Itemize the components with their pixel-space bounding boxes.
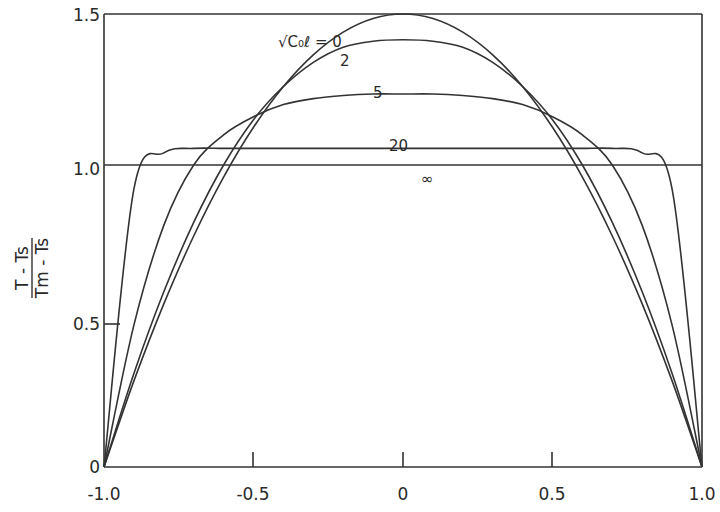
x-tick-label: 0.5 bbox=[538, 484, 565, 504]
curve-series-3 bbox=[104, 148, 702, 467]
curve-label-2: 2 bbox=[340, 52, 350, 70]
x-tick-label: -1.0 bbox=[87, 484, 120, 504]
x-tick-label: 0 bbox=[398, 484, 409, 504]
y-tick-label: 0 bbox=[89, 457, 100, 477]
y-tick-label: 0.5 bbox=[73, 314, 100, 334]
y-label-numerator: T - Ts bbox=[12, 246, 32, 291]
curve-label-20: 20 bbox=[389, 137, 408, 155]
curve-series-0 bbox=[104, 14, 702, 467]
x-tick-label: -0.5 bbox=[236, 484, 269, 504]
curve-series-1 bbox=[104, 40, 702, 467]
curve-label-5: 5 bbox=[373, 84, 383, 102]
chart: -1.0 -0.5 0 0.5 1.0 0 0.5 1.0 1.5 T - Ts… bbox=[0, 0, 720, 512]
y-label-denominator: Tm - Ts bbox=[32, 238, 52, 299]
curve-label-0: √C₀ℓ = 0 bbox=[278, 33, 342, 51]
y-axis-label: T - Ts Tm - Ts bbox=[12, 238, 52, 299]
x-tick-label: 1.0 bbox=[688, 484, 715, 504]
curves bbox=[104, 14, 702, 467]
y-tick-label: 1.0 bbox=[73, 159, 100, 179]
curve-label-inf: ∞ bbox=[421, 170, 434, 188]
y-tick-label: 1.5 bbox=[73, 5, 100, 25]
